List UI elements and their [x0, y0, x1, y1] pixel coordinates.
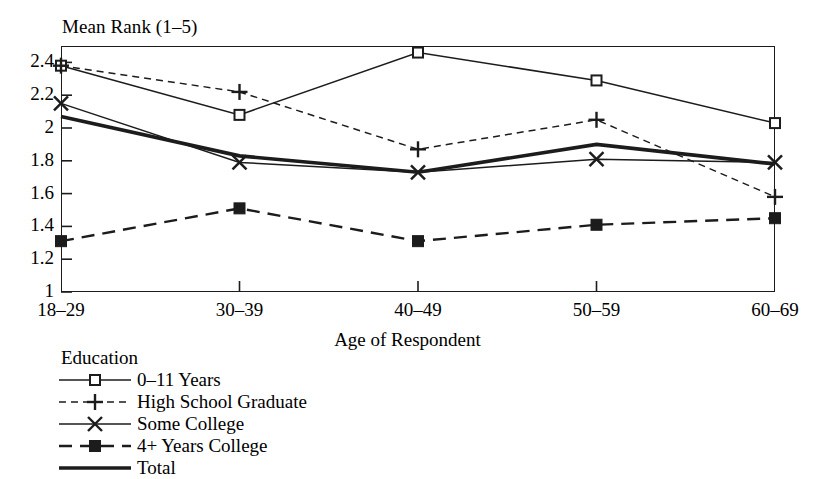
- y-tick-label: 2.2: [6, 83, 54, 105]
- legend-item-2[interactable]: High School Graduate: [57, 391, 307, 413]
- legend-item-label: Total: [137, 457, 176, 479]
- x-tick-label: 18–29: [1, 299, 121, 321]
- y-tick-label: 1.2: [6, 247, 54, 269]
- y-tick-label: 2.4: [6, 50, 54, 72]
- legend-key-icon: [57, 435, 133, 457]
- legend-key-icon: [57, 457, 133, 479]
- x-tick-label: 30–39: [180, 299, 300, 321]
- x-tick-label: 50–59: [537, 299, 657, 321]
- y-tick-label: 1.6: [6, 182, 54, 204]
- x-tick-label: 40–49: [358, 299, 478, 321]
- y-tick-label: 2: [6, 116, 54, 138]
- legend-item-5[interactable]: Total: [57, 457, 307, 479]
- legend-title: Education: [61, 347, 307, 368]
- legend-item-label: 0–11 Years: [137, 369, 221, 391]
- chart-figure: Mean Rank (1–5) 11.21.41.61.822.22.4 18–…: [0, 0, 815, 479]
- legend-item-label: 4+ Years College: [137, 435, 268, 457]
- series-2: [53, 58, 783, 205]
- legend-item-1[interactable]: 0–11 Years: [57, 369, 307, 391]
- legend-item-label: Some College: [137, 413, 244, 435]
- y-tick-label: 1.8: [6, 149, 54, 171]
- legend-item-label: High School Graduate: [137, 391, 307, 413]
- series-1: [56, 48, 780, 129]
- legend-key-icon: [57, 369, 133, 391]
- legend: Education 0–11 YearsHigh School Graduate…: [57, 347, 307, 479]
- axis-ticks: [61, 62, 597, 292]
- y-tick-label: 1.4: [6, 214, 54, 236]
- data-series-layer: [53, 48, 783, 247]
- x-tick-label: 60–69: [715, 299, 815, 321]
- legend-item-4[interactable]: 4+ Years College: [57, 435, 307, 457]
- legend-key-icon: [57, 391, 133, 413]
- legend-item-3[interactable]: Some College: [57, 413, 307, 435]
- series-4: [56, 203, 781, 247]
- legend-key-icon: [57, 413, 133, 435]
